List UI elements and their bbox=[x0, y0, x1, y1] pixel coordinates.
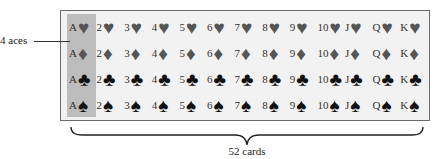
hearts-icon: ♥ bbox=[350, 18, 361, 37]
card-rank: 8 bbox=[262, 21, 268, 33]
card-rank: 7 bbox=[235, 99, 241, 111]
clubs-icon: ♣ bbox=[131, 70, 143, 89]
spades-icon: ♠ bbox=[329, 96, 339, 115]
card-rank: 4 bbox=[152, 99, 158, 111]
card-rank: 2 bbox=[97, 47, 103, 59]
card-rank: J bbox=[345, 73, 349, 85]
card-8-of-hearts: 8♥ bbox=[262, 14, 280, 40]
card-8-of-spades: 8♠ bbox=[262, 92, 279, 118]
card-5-of-hearts: 5♥ bbox=[179, 14, 197, 40]
hearts-icon: ♥ bbox=[296, 18, 307, 37]
card-rank: 6 bbox=[207, 21, 213, 33]
card-5-of-spades: 5♠ bbox=[179, 92, 196, 118]
card-rank: 9 bbox=[290, 99, 296, 111]
card-9-of-clubs: 9♣ bbox=[290, 66, 309, 92]
card-rank: A bbox=[69, 21, 77, 33]
card-rank: J bbox=[345, 21, 349, 33]
clubs-icon: ♣ bbox=[214, 70, 226, 89]
hearts-icon: ♥ bbox=[103, 18, 114, 37]
card-rank: Q bbox=[373, 73, 381, 85]
spades-icon: ♠ bbox=[269, 96, 279, 115]
hearts-icon: ♥ bbox=[241, 18, 252, 37]
card-rank: 5 bbox=[179, 21, 185, 33]
card-7-of-clubs: 7♣ bbox=[235, 66, 254, 92]
card-q-of-hearts: Q♥ bbox=[373, 14, 393, 40]
card-q-of-spades: Q♠ bbox=[373, 92, 392, 118]
card-8-of-diamonds: 8♦ bbox=[262, 40, 278, 66]
suit-row-spades: A♠2♠3♠4♠5♠6♠7♠8♠9♠10♠J♠Q♠K♠ bbox=[67, 92, 427, 118]
card-rank: 7 bbox=[235, 73, 241, 85]
card-rank: A bbox=[69, 73, 77, 85]
card-rank: K bbox=[400, 47, 408, 59]
card-10-of-hearts: 10♥ bbox=[317, 14, 340, 40]
card-3-of-hearts: 3♥ bbox=[124, 14, 142, 40]
card-rank: 3 bbox=[124, 99, 130, 111]
card-rank: 5 bbox=[179, 73, 185, 85]
card-q-of-diamonds: Q♦ bbox=[373, 40, 392, 66]
card-rank: 9 bbox=[290, 47, 296, 59]
card-rank: 10 bbox=[317, 47, 328, 59]
card-rank: 5 bbox=[179, 47, 185, 59]
card-3-of-spades: 3♠ bbox=[124, 92, 141, 118]
card-rank: 10 bbox=[317, 21, 328, 33]
card-q-of-clubs: Q♣ bbox=[373, 66, 394, 92]
diamonds-icon: ♦ bbox=[350, 44, 360, 63]
card-6-of-hearts: 6♥ bbox=[207, 14, 225, 40]
card-rank: 10 bbox=[317, 99, 328, 111]
diamonds-icon: ♦ bbox=[241, 44, 251, 63]
diamonds-icon: ♦ bbox=[78, 44, 88, 63]
aces-label: 4 aces bbox=[0, 34, 27, 46]
card-rank: 6 bbox=[207, 99, 213, 111]
card-rank: K bbox=[400, 99, 408, 111]
card-rank: 3 bbox=[124, 21, 130, 33]
card-k-of-clubs: K♣ bbox=[400, 66, 421, 92]
spades-icon: ♠ bbox=[241, 96, 251, 115]
card-j-of-hearts: J♥ bbox=[345, 14, 362, 40]
card-grid: A♥2♥3♥4♥5♥6♥7♥8♥9♥10♥J♥Q♥K♥A♦2♦3♦4♦5♦6♦7… bbox=[67, 14, 427, 117]
card-8-of-clubs: 8♣ bbox=[262, 66, 281, 92]
hearts-icon: ♥ bbox=[214, 18, 225, 37]
card-rank: A bbox=[69, 99, 77, 111]
suit-row-diamonds: A♦2♦3♦4♦5♦6♦7♦8♦9♦10♦J♦Q♦K♦ bbox=[67, 40, 427, 66]
card-a-of-diamonds: A♦ bbox=[69, 40, 88, 66]
card-rank: 8 bbox=[262, 73, 268, 85]
card-rank: 6 bbox=[207, 73, 213, 85]
card-rank: 9 bbox=[290, 21, 296, 33]
card-rank: 3 bbox=[124, 73, 130, 85]
card-rank: 4 bbox=[152, 73, 158, 85]
card-2-of-spades: 2♠ bbox=[97, 92, 114, 118]
card-rank: 8 bbox=[262, 47, 268, 59]
spades-icon: ♠ bbox=[103, 96, 113, 115]
card-rank: Q bbox=[373, 21, 381, 33]
card-rank: 2 bbox=[97, 73, 103, 85]
card-rank: 3 bbox=[124, 47, 130, 59]
card-5-of-diamonds: 5♦ bbox=[179, 40, 195, 66]
diamonds-icon: ♦ bbox=[296, 44, 306, 63]
card-j-of-clubs: J♣ bbox=[345, 66, 363, 92]
card-rank: K bbox=[400, 73, 408, 85]
hearts-icon: ♥ bbox=[329, 18, 340, 37]
hearts-icon: ♥ bbox=[78, 18, 89, 37]
card-4-of-diamonds: 4♦ bbox=[152, 40, 168, 66]
card-k-of-diamonds: K♦ bbox=[400, 40, 419, 66]
diamonds-icon: ♦ bbox=[131, 44, 141, 63]
card-7-of-diamonds: 7♦ bbox=[235, 40, 251, 66]
card-rank: 4 bbox=[152, 47, 158, 59]
card-rank: 2 bbox=[97, 99, 103, 111]
card-rank: Q bbox=[373, 99, 381, 111]
card-6-of-clubs: 6♣ bbox=[207, 66, 226, 92]
card-rank: 2 bbox=[97, 21, 103, 33]
clubs-icon: ♣ bbox=[329, 70, 341, 89]
card-4-of-spades: 4♠ bbox=[152, 92, 169, 118]
card-rank: 6 bbox=[207, 47, 213, 59]
card-a-of-clubs: A♣ bbox=[69, 66, 90, 92]
hearts-icon: ♥ bbox=[186, 18, 197, 37]
total-cards-label: 52 cards bbox=[0, 145, 442, 157]
clubs-icon: ♣ bbox=[103, 70, 115, 89]
card-rank: 5 bbox=[179, 99, 185, 111]
card-6-of-spades: 6♠ bbox=[207, 92, 224, 118]
diamonds-icon: ♦ bbox=[158, 44, 168, 63]
card-k-of-spades: K♠ bbox=[400, 92, 419, 118]
card-9-of-hearts: 9♥ bbox=[290, 14, 308, 40]
card-rank: 7 bbox=[235, 21, 241, 33]
